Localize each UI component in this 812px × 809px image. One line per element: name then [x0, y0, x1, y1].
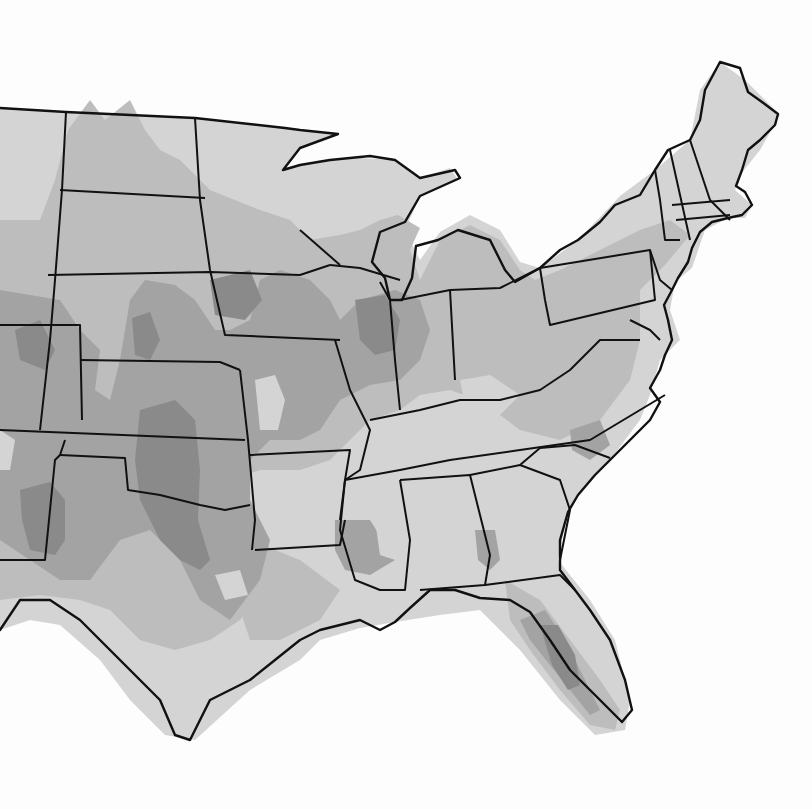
us-contour-map: [0, 0, 812, 809]
map-container: [0, 0, 812, 809]
